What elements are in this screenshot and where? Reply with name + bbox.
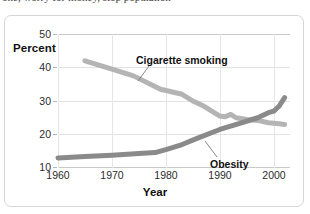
figure-card: Percent Year 50 40 30 20 10 1960 1 xyxy=(4,15,304,207)
series-label-obesity: Obesity xyxy=(210,158,249,170)
cut-off-top-text-line: one, worry for money, stop population xyxy=(2,0,171,3)
cut-off-top-text: one, worry for money, stop population xyxy=(0,0,310,9)
series-line-obesity xyxy=(58,98,285,158)
leader-line-obesity xyxy=(205,141,217,157)
line-chart: Percent Year 50 40 30 20 10 1960 1 xyxy=(5,16,305,208)
series-label-cigarette-smoking: Cigarette smoking xyxy=(136,54,228,66)
series-line-cigarette-smoking xyxy=(85,61,285,125)
series-overlay xyxy=(5,16,305,208)
